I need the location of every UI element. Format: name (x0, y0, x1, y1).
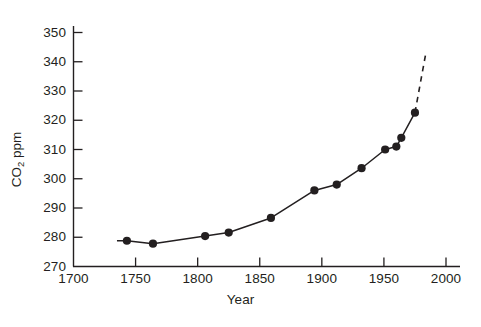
y-axis-title-main: CO (10, 167, 25, 187)
data-point-marker (267, 214, 275, 222)
y-axis-title-subscript: 2 (16, 161, 27, 166)
data-point-marker (381, 145, 389, 153)
x-axis-tick-label: 1700 (44, 271, 104, 286)
x-axis-ticks (136, 258, 446, 267)
data-point-marker (392, 142, 400, 150)
data-point-marker (333, 181, 341, 189)
y-axis-tick-label: 350 (26, 25, 66, 40)
y-axis-tick-label: 340 (26, 54, 66, 69)
x-axis-title: Year (0, 292, 481, 307)
x-axis-tick-label: 1750 (106, 271, 166, 286)
y-axis-tick-label: 300 (26, 171, 66, 186)
x-axis-tick-label: 1950 (354, 271, 414, 286)
data-point-marker (149, 240, 157, 248)
data-point-marker (397, 134, 405, 142)
y-axis-tick-label: 330 (26, 83, 66, 98)
data-point-marker (225, 228, 233, 236)
data-point-marker (123, 237, 131, 245)
x-axis-tick-label: 1900 (292, 271, 352, 286)
y-axis-ticks (74, 33, 83, 238)
y-axis-title-unit: ppm (10, 131, 25, 161)
data-line-dashed-projection (415, 52, 426, 113)
x-axis-tick-label: 2000 (416, 271, 476, 286)
co2-line-chart: 270280290300310320330340350 170017501800… (0, 0, 481, 327)
data-point-marker (411, 109, 419, 117)
data-line-solid (117, 113, 415, 244)
data-point-marker (310, 186, 318, 194)
y-axis-tick-label: 320 (26, 112, 66, 127)
x-axis-tick-label: 1850 (230, 271, 290, 286)
data-point-markers (123, 109, 419, 248)
y-axis-tick-label: 310 (26, 142, 66, 157)
y-axis-title: CO2 ppm (6, 104, 28, 214)
y-axis-tick-label: 290 (26, 200, 66, 215)
x-axis-tick-label: 1800 (168, 271, 228, 286)
y-axis-tick-label: 280 (26, 229, 66, 244)
data-point-marker (357, 164, 365, 172)
data-point-marker (201, 232, 209, 240)
